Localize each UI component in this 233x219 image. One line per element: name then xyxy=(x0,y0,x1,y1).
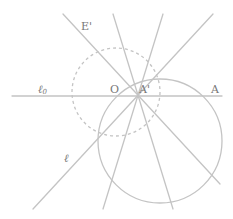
line-steep-2 xyxy=(103,14,163,209)
line-l xyxy=(33,14,213,209)
label-l0-sub: 0 xyxy=(43,88,48,96)
geometry-diagram: E' O A' A ℓ0 ℓ xyxy=(0,0,233,219)
line-e-prime xyxy=(63,14,220,184)
label-e-prime: E' xyxy=(81,20,92,33)
label-o: O xyxy=(110,83,119,96)
label-a-prime: A' xyxy=(138,83,150,96)
solid-circle xyxy=(98,79,222,203)
line-steep-1 xyxy=(113,14,173,209)
label-l: ℓ xyxy=(64,152,69,165)
label-l0: ℓ0 xyxy=(38,83,48,96)
label-a: A xyxy=(210,83,220,96)
